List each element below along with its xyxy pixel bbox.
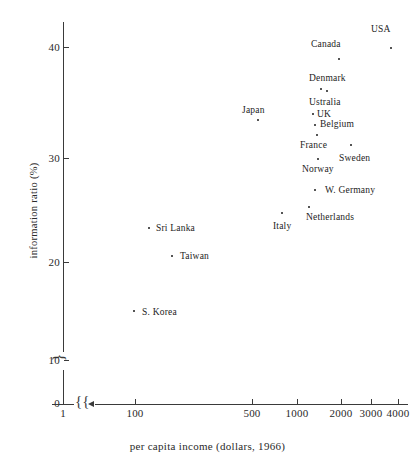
y-tick-label-20: 20: [20, 257, 60, 268]
y-tick-30: [64, 158, 69, 159]
data-point: [314, 124, 316, 126]
data-point-label: Belgium: [320, 119, 354, 129]
x-tick-label-1: 1: [60, 407, 66, 419]
x-tick-label-3000: 3000: [360, 407, 383, 419]
x-tick-label-500: 500: [243, 407, 260, 419]
x-tick-1: [63, 399, 64, 404]
y-tick-label-30: 30: [20, 153, 60, 164]
data-point: [390, 47, 392, 49]
data-point-label: UK: [317, 109, 331, 119]
data-point: [281, 212, 283, 214]
data-point-label: USA: [371, 24, 391, 34]
data-point: [312, 113, 314, 115]
x-tick-3000: [371, 399, 372, 404]
x-axis-title: per capita income (dollars, 1966): [0, 440, 415, 452]
data-point-label: Norway: [302, 164, 334, 174]
x-tick-100: [135, 399, 136, 404]
y-tick-40: [64, 47, 69, 48]
data-point: [257, 119, 259, 121]
data-point: [320, 88, 322, 90]
data-point-label: W. Germany: [325, 185, 375, 195]
x-axis-arrow-icon: [88, 401, 94, 407]
data-point: [326, 90, 328, 92]
x-tick-4000: [398, 399, 399, 404]
x-tick-label-4000: 4000: [387, 407, 410, 419]
data-point-label: Italy: [273, 221, 291, 231]
x-tick-2000: [341, 399, 342, 404]
y-tick-label-40: 40: [20, 42, 60, 53]
y-tick-label-10: 10: [20, 355, 60, 366]
data-point: [308, 206, 310, 208]
data-point: [171, 255, 173, 257]
data-point-label: Japan: [242, 105, 265, 115]
data-point: [148, 227, 150, 229]
data-point: [350, 144, 352, 146]
y-axis-line: [63, 22, 64, 352]
scatter-plot-figure: { 40 30 20 10 0 {{ 1 100 500 1000 2000 3…: [0, 0, 415, 469]
data-point: [314, 189, 316, 191]
x-tick-label-100: 100: [126, 407, 143, 419]
data-point-label: Netherlands: [306, 212, 354, 222]
data-point-label: Ustralia: [309, 97, 341, 107]
data-point-label: Taiwan: [180, 251, 209, 261]
x-tick-500: [252, 399, 253, 404]
data-point-label: Sweden: [339, 153, 370, 163]
data-point-label: Sri Lanka: [156, 223, 195, 233]
y-tick-20: [64, 262, 69, 263]
y-axis-title: information ratio (%): [28, 131, 39, 291]
data-point: [317, 158, 319, 160]
y-tick-10: [64, 360, 69, 361]
x-axis-line: [95, 404, 408, 405]
x-tick-label-2000: 2000: [330, 407, 353, 419]
data-point-label: Canada: [311, 39, 341, 49]
x-tick-1000: [297, 399, 298, 404]
data-point-label: Denmark: [309, 73, 346, 83]
data-point: [316, 134, 318, 136]
data-point-label: S. Korea: [142, 307, 177, 317]
x-axis-origin-stub: [52, 404, 74, 405]
data-point-label: France: [300, 140, 327, 150]
data-point: [338, 58, 340, 60]
x-tick-label-1000: 1000: [286, 407, 309, 419]
data-point: [133, 310, 135, 312]
